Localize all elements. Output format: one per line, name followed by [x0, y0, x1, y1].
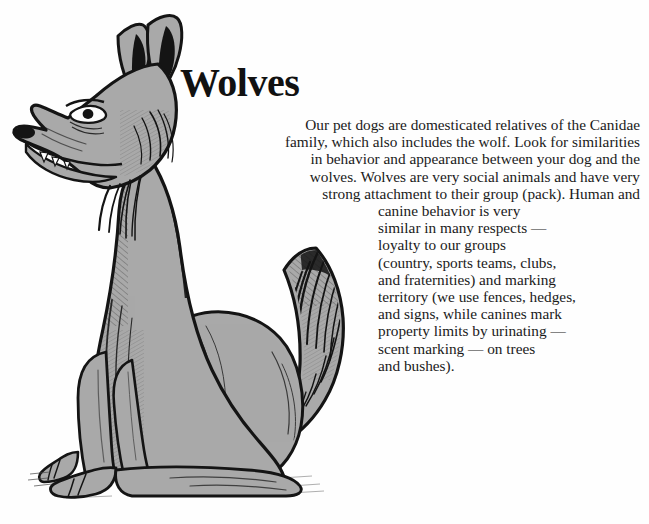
- page-title: Wolves: [180, 62, 640, 104]
- body-line: (country, sports teams, clubs,: [378, 254, 640, 271]
- body-line: family, which also includes the wolf. Lo…: [170, 133, 640, 150]
- wolf-ruff: [99, 176, 140, 236]
- body-line: property limits by urinating —: [378, 322, 640, 339]
- body-line: canine behavior is very: [378, 202, 640, 219]
- body-line: similar in many respects —: [378, 219, 640, 236]
- body-line: in behavior and appearance between your …: [170, 150, 640, 167]
- body-line: Our pet dogs are domesticated relatives …: [170, 116, 640, 133]
- body-line: territory (we use fences, hedges,: [378, 288, 640, 305]
- body-line: and bushes).: [378, 357, 640, 374]
- wolf-front-legs: [78, 352, 150, 478]
- article-body-lower: canine behavior is very similar in many …: [378, 202, 640, 374]
- body-line: scent marking — on trees: [378, 340, 640, 357]
- wolf-nose: [13, 126, 36, 138]
- body-line: strong attachment to their group (pack).…: [170, 185, 640, 202]
- body-line: loyalty to our groups: [378, 236, 640, 253]
- body-line: and signs, while canines mark: [378, 305, 640, 322]
- article: Wolves Our pet dogs are domesticated rel…: [170, 62, 640, 462]
- wolf-head: [13, 64, 181, 190]
- page-canvas: Wolves Our pet dogs are domesticated rel…: [0, 0, 649, 524]
- body-line: and fraternities) and marking: [378, 271, 640, 288]
- wolf-eye: [83, 109, 94, 119]
- article-body-upper: Our pet dogs are domesticated relatives …: [170, 116, 640, 202]
- wolf-teeth: [40, 152, 70, 169]
- body-line: wolves. Wolves are very social animals a…: [170, 168, 640, 185]
- ground-shadow: [56, 476, 324, 498]
